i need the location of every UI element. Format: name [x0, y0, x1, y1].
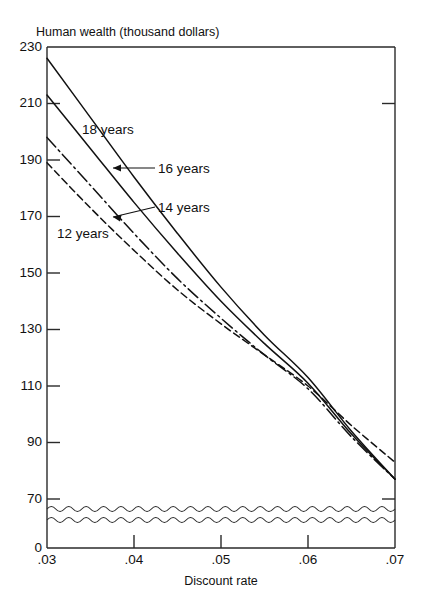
series-line-12-years [47, 163, 395, 462]
leader-16-years [113, 165, 155, 172]
y-label-110: 110 [20, 378, 42, 393]
x-label-05: .05 [212, 552, 231, 567]
y-label-130: 130 [19, 321, 42, 336]
x-label-07: .07 [386, 552, 405, 567]
chart-title: Human wealth (thousand dollars) [36, 25, 219, 39]
x-axis-tick-labels: .03 .04 .05 .06 .07 [38, 552, 405, 567]
y-label-150: 150 [19, 265, 42, 280]
x-label-03: .03 [38, 552, 57, 567]
series-label-18-years: 18 years [82, 122, 134, 137]
y-label-230: 230 [19, 39, 42, 54]
series-label-12-years: 12 years [57, 226, 109, 241]
y-axis-tick-labels: 230 210 190 170 150 130 110 90 70 0 [19, 39, 42, 555]
x-label-06: .06 [299, 552, 318, 567]
x-axis-title: Discount rate [184, 574, 258, 588]
y-label-70: 70 [27, 491, 42, 506]
y-label-90: 90 [27, 434, 42, 449]
series-annotations: 18 years 16 years 14 years 12 years [57, 122, 210, 241]
chart-figure: Human wealth (thousand dollars) 230 210 [0, 0, 424, 608]
series-label-16-years: 16 years [158, 161, 210, 176]
y-label-210: 210 [19, 95, 42, 110]
y-label-190: 190 [19, 152, 42, 167]
y-axis-break [47, 507, 395, 523]
leader-arrow-16-years [113, 165, 121, 172]
axis-break-wave-upper [47, 507, 395, 512]
axis-break-wave-lower [47, 518, 395, 523]
x-axis-ticks [134, 535, 308, 548]
y-label-170: 170 [19, 208, 42, 223]
human-wealth-discount-rate-chart: Human wealth (thousand dollars) 230 210 [0, 0, 424, 608]
series-label-14-years: 14 years [158, 200, 210, 215]
series-line-14-years [47, 137, 395, 479]
x-label-04: .04 [125, 552, 144, 567]
